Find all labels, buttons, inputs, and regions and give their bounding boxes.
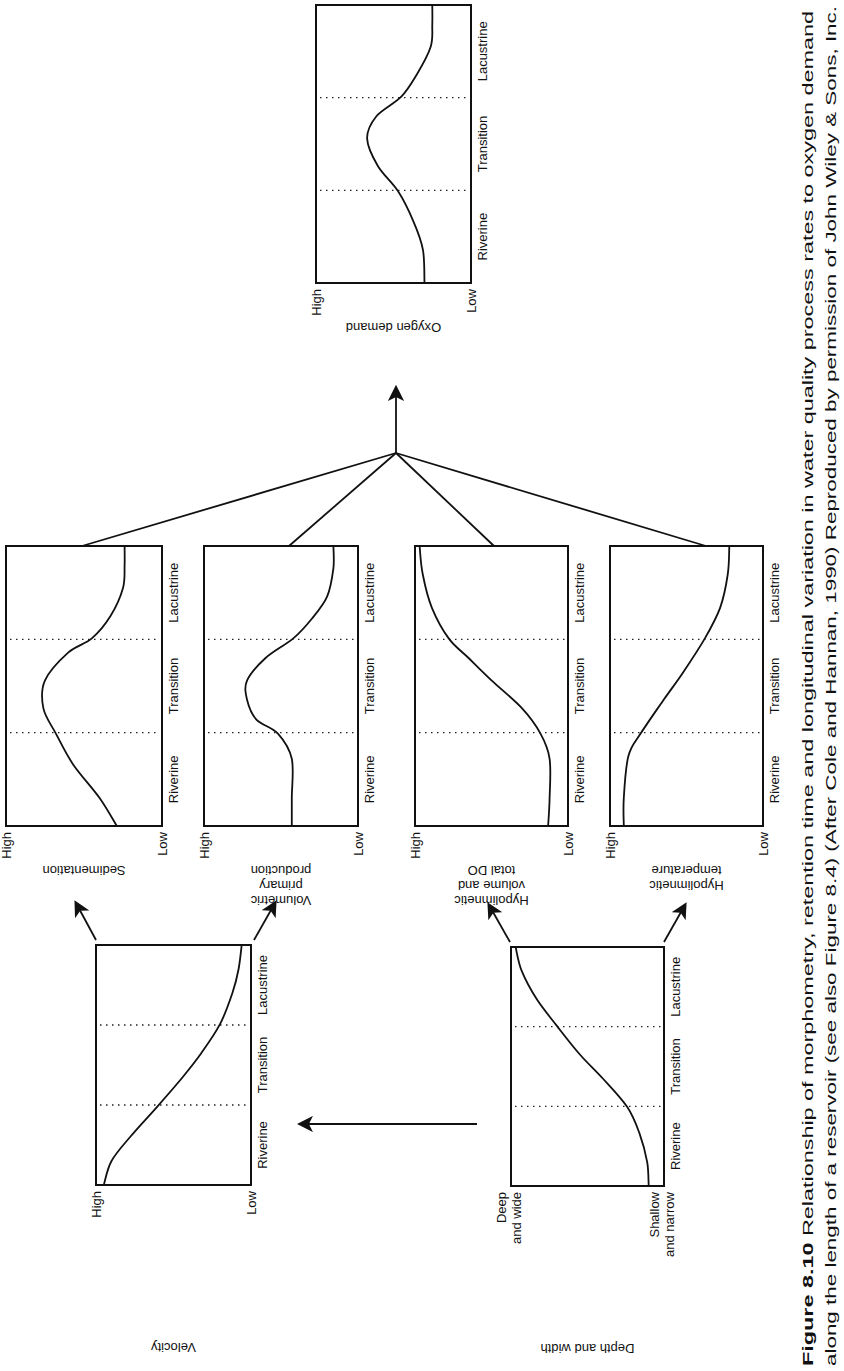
low-label: Low	[244, 1190, 259, 1214]
panel-frame	[204, 546, 358, 826]
panel-frame	[511, 947, 664, 1186]
fan-line-0	[82, 453, 396, 546]
zone-label-lacustrine: Lacustrine	[475, 21, 490, 81]
zone-label-lacustrine: Lacustrine	[166, 563, 181, 623]
figure-caption: Figure 8.10 Relationship of morphometry,…	[799, 6, 839, 1366]
panel-oxygen-demand: RiverineTransitionLacustrineHighLowOxyge…	[309, 5, 490, 335]
low-label: and narrow	[662, 1191, 677, 1257]
axis-label-hypolimnetic-volume-do: Hypolimnetic	[454, 893, 529, 908]
zone-label-transition: Transition	[255, 1037, 270, 1094]
zone-label-lacustrine: Lacustrine	[255, 955, 270, 1015]
zone-label-riverine: Riverine	[255, 1121, 270, 1169]
high-label: and wide	[509, 1192, 524, 1244]
zone-label-riverine: Riverine	[362, 755, 377, 803]
trend-curve	[245, 546, 334, 826]
zone-label-riverine: Riverine	[572, 755, 587, 803]
zone-label-riverine: Riverine	[767, 755, 782, 803]
panel-hypolimnetic-temperature: RiverineTransitionLacustrineHighLowHypol…	[603, 546, 782, 893]
high-label: Deep	[494, 1192, 509, 1223]
axis-label-hypolimnetic-temperature: temperature	[651, 863, 721, 878]
zone-label-transition: Transition	[362, 658, 377, 715]
zone-label-transition: Transition	[572, 658, 587, 715]
caption-line-1: Figure 8.10 Relationship of morphometry,…	[799, 11, 816, 1366]
panel-frame	[415, 546, 568, 826]
axis-label-hypolimnetic-volume-do: volume and	[458, 878, 525, 893]
trend-curve	[104, 945, 242, 1185]
zone-label-transition: Transition	[166, 658, 181, 715]
axis-label-primary-production: primary	[259, 878, 303, 893]
reservoir-process-diagram: RiverineTransitionLacustrineHighLowVeloc…	[0, 0, 844, 1371]
low-label: Shallow	[647, 1191, 662, 1237]
axis-label-oxygen-demand: Oxygen demand	[346, 320, 441, 335]
arrow-depth-0	[489, 905, 510, 942]
axis-label-hypolimnetic-volume-do: total DO	[468, 863, 516, 878]
zone-label-transition: Transition	[475, 116, 490, 173]
high-label: High	[408, 832, 423, 859]
zone-label-riverine: Riverine	[166, 755, 181, 803]
axis-label-primary-production: Volumetric	[250, 893, 311, 908]
axis-label-depth-width: Depth and width	[541, 1341, 635, 1356]
axis-label-primary-production: production	[251, 863, 312, 878]
panel-frame	[316, 5, 471, 283]
low-label: Low	[351, 831, 366, 855]
zone-label-lacustrine: Lacustrine	[668, 957, 683, 1017]
zone-label-transition: Transition	[668, 1038, 683, 1095]
zone-label-lacustrine: Lacustrine	[767, 563, 782, 623]
high-label: High	[197, 832, 212, 859]
high-label: High	[0, 832, 14, 859]
zone-label-lacustrine: Lacustrine	[572, 563, 587, 623]
zone-label-riverine: Riverine	[668, 1122, 683, 1170]
panel-sedimentation: RiverineTransitionLacustrineHighLowSedim…	[0, 546, 181, 878]
arrow-depth-1	[664, 905, 685, 942]
panel-group: RiverineTransitionLacustrineHighLowVeloc…	[0, 5, 782, 1356]
high-label: High	[309, 289, 324, 316]
panel-velocity: RiverineTransitionLacustrineHighLowVeloc…	[89, 945, 270, 1355]
fan-line-1	[289, 453, 396, 546]
panel-primary-production: RiverineTransitionLacustrineHighLowVolum…	[197, 546, 377, 908]
trend-curve	[420, 546, 551, 826]
arrow-velocity-0	[76, 903, 96, 940]
axis-label-sedimentation: Sedimentation	[42, 863, 125, 878]
low-label: Low	[464, 288, 479, 312]
low-label: Low	[756, 831, 771, 855]
low-label: Low	[155, 831, 170, 855]
fan-line-3	[396, 453, 706, 546]
high-label: High	[603, 832, 618, 859]
panel-depth-width: RiverineTransitionLacustrineDeepand wide…	[494, 947, 683, 1356]
low-label: Low	[561, 831, 576, 855]
panel-frame	[6, 546, 162, 826]
panel-hypolimnetic-volume-do: RiverineTransitionLacustrineHighLowHypol…	[408, 546, 587, 908]
figure-number: Figure 8.10	[799, 1236, 816, 1366]
axis-label-hypolimnetic-temperature: Hypolimnetic	[649, 878, 724, 893]
high-label: High	[89, 1191, 104, 1218]
axis-label-velocity: Velocity	[151, 1340, 196, 1355]
zone-label-lacustrine: Lacustrine	[362, 563, 377, 623]
trend-curve	[516, 947, 649, 1186]
zone-label-transition: Transition	[767, 658, 782, 715]
trend-curve	[367, 5, 432, 283]
trend-curve	[42, 546, 125, 826]
panel-frame	[610, 546, 763, 826]
trend-curve	[623, 546, 729, 826]
caption-text: Relationship of morphometry, retention t…	[799, 11, 816, 1236]
caption-line-2: along the length of a reservoir (see als…	[822, 6, 839, 1366]
zone-label-riverine: Riverine	[475, 213, 490, 261]
